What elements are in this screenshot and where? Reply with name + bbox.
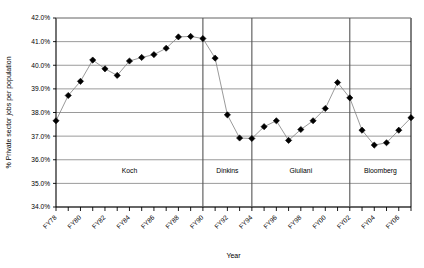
x-tick-label: FY98: [286, 214, 302, 230]
era-label: Dinkins: [216, 167, 239, 174]
y-tick-label: 34.0%: [31, 203, 50, 210]
x-axis-title: Year: [226, 252, 241, 259]
y-tick-label: 42.0%: [31, 14, 50, 21]
y-tick-label: 40.0%: [31, 62, 50, 69]
x-tick-label: FY02: [335, 214, 351, 230]
y-axis-title: % Private sector jobs per population: [5, 56, 13, 168]
era-label: Bloomberg: [364, 167, 397, 175]
x-tick-label: FY82: [91, 214, 107, 230]
y-tick-label: 39.0%: [31, 85, 50, 92]
x-tick-label: FY84: [115, 214, 131, 230]
era-label: Giuliani: [289, 167, 312, 174]
x-tick-label: FY94: [237, 214, 253, 230]
y-tick-label: 37.0%: [31, 133, 50, 140]
chart-container: 34.0%35.0%36.0%37.0%38.0%39.0%40.0%41.0%…: [0, 0, 424, 268]
x-tick-label: FY86: [140, 214, 156, 230]
era-label: Koch: [122, 167, 138, 174]
y-tick-label: 36.0%: [31, 156, 50, 163]
y-tick-label: 38.0%: [31, 109, 50, 116]
x-tick-label: FY04: [360, 214, 376, 230]
x-tick-label: FY80: [66, 214, 82, 230]
x-tick-label: FY92: [213, 214, 229, 230]
x-tick-label: FY00: [311, 214, 327, 230]
x-tick-label: FY78: [42, 214, 58, 230]
x-tick-label: FY90: [189, 214, 205, 230]
x-tick-label: FY88: [164, 214, 180, 230]
x-tick-label: FY96: [262, 214, 278, 230]
y-tick-label: 35.0%: [31, 180, 50, 187]
line-chart: 34.0%35.0%36.0%37.0%38.0%39.0%40.0%41.0%…: [0, 0, 424, 268]
x-tick-label: FY06: [384, 214, 400, 230]
y-tick-label: 41.0%: [31, 38, 50, 45]
